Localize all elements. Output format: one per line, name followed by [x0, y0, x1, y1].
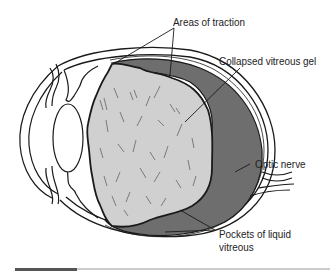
- label-vitreous: vitreous: [219, 241, 254, 254]
- label-optic-nerve: Optic nerve: [255, 158, 306, 171]
- label-collapsed-vitreous-gel: Collapsed vitreous gel: [219, 55, 316, 68]
- label-pockets-of-liquid: Pockets of liquid: [219, 228, 291, 241]
- label-areas-of-traction: Areas of traction: [173, 16, 245, 29]
- lens: [53, 104, 83, 172]
